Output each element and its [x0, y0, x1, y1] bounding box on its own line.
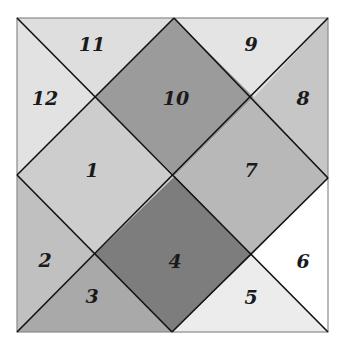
label-3: 3	[85, 285, 98, 307]
label-4: 4	[168, 250, 181, 272]
label-7: 7	[244, 159, 257, 181]
numbered-region-diagram: 1 2 3 4 5 6 7 8 9 10 11 12	[0, 0, 344, 350]
label-5: 5	[244, 286, 257, 308]
label-1: 1	[85, 159, 98, 181]
label-9: 9	[244, 33, 257, 55]
label-12: 12	[32, 87, 58, 109]
label-6: 6	[296, 250, 309, 272]
label-10: 10	[163, 87, 189, 109]
label-11: 11	[79, 33, 105, 55]
label-2: 2	[37, 249, 51, 271]
label-8: 8	[295, 87, 309, 109]
